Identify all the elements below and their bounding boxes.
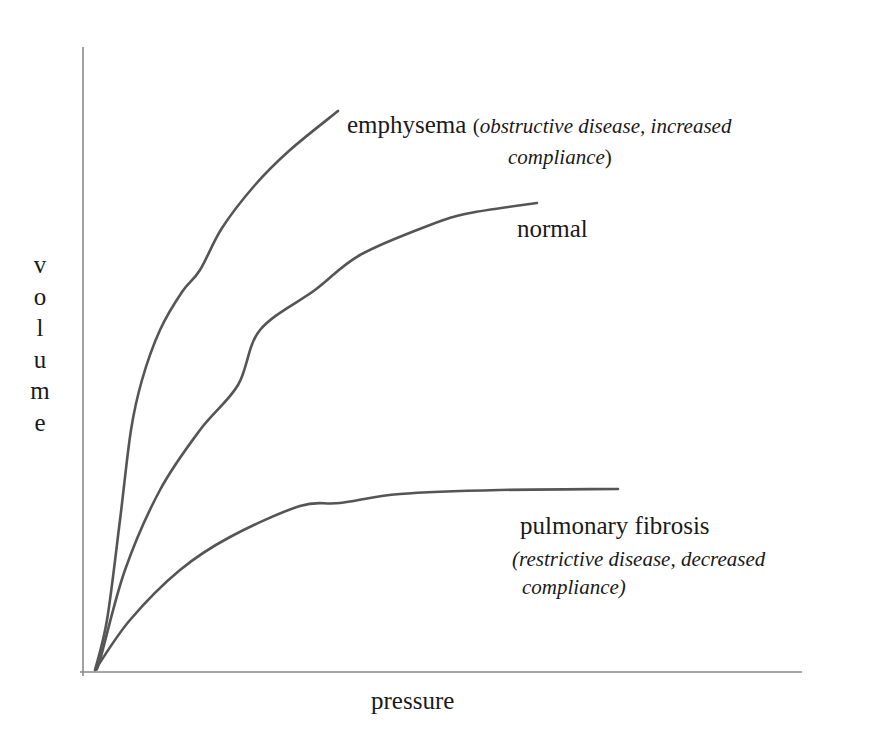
emphysema-close-paren: ) [605, 145, 612, 169]
y-label-letter: e [28, 407, 52, 439]
fibrosis-note-line2: compliance) [522, 577, 626, 598]
y-label-letter: l [28, 312, 52, 344]
x-axis-label: pressure [371, 688, 454, 713]
emphysema-open-paren: ( [473, 114, 480, 138]
emphysema-name: emphysema [347, 111, 466, 138]
emphysema-curve [95, 111, 338, 670]
emphysema-note-line2-wrap: compliance) [508, 147, 612, 168]
emphysema-note-line2: compliance [508, 145, 605, 169]
normal-curve [96, 203, 537, 670]
emphysema-label: emphysema (obstructive disease, increase… [347, 112, 731, 137]
y-label-letter: u [28, 344, 52, 376]
y-label-letter: m [28, 375, 52, 407]
y-label-letter: o [28, 281, 52, 313]
y-label-letter: v [28, 249, 52, 281]
pulmonary-fibrosis-label: pulmonary fibrosis [520, 513, 710, 538]
normal-label: normal [517, 216, 588, 241]
compliance-curves-figure: emphysema (obstructive disease, increase… [0, 0, 872, 752]
emphysema-note-line1: obstructive disease, increased [480, 114, 732, 138]
y-axis-label: v o l u m e [28, 249, 52, 438]
fibrosis-note-line1: (restrictive disease, decreased [512, 549, 765, 570]
